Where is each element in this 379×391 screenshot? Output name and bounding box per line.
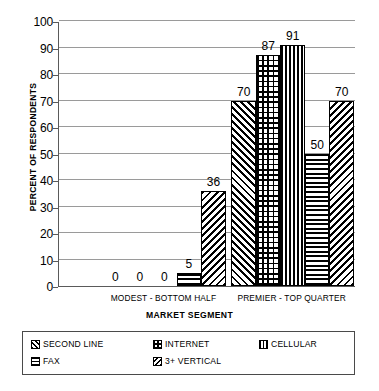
y-axis-tick-mark — [53, 208, 58, 209]
legend-item[interactable]: SECOND LINE — [31, 339, 103, 349]
bar-value-label: 36 — [207, 175, 220, 189]
legend-swatch-icon — [153, 340, 162, 349]
legend-item[interactable]: FAX — [31, 356, 60, 366]
legend-swatch-icon — [259, 340, 268, 349]
bar — [305, 154, 330, 287]
bar — [280, 45, 305, 286]
bar — [177, 273, 202, 286]
y-axis-tick-mark — [53, 49, 58, 50]
x-axis-title: MARKET SEGMENT — [0, 310, 379, 320]
legend-item[interactable]: 3+ VERTICAL — [153, 356, 221, 366]
y-axis-tick-label: 20 — [7, 227, 53, 241]
gridline — [59, 100, 355, 101]
y-axis-tick-mark — [53, 287, 58, 288]
bar-value-label: 0 — [161, 270, 168, 284]
legend-item[interactable]: CELLULAR — [259, 339, 317, 349]
y-axis-tick-label: 100 — [7, 15, 53, 29]
legend-item-label: SECOND LINE — [43, 339, 103, 349]
bar-value-label: 70 — [237, 85, 250, 99]
chart-legend: SECOND LINEINTERNETCELLULARFAX3+ VERTICA… — [22, 331, 355, 375]
y-axis-tick-mark — [53, 155, 58, 156]
y-axis-tick-label: 50 — [7, 148, 53, 162]
y-axis-tick-mark — [53, 22, 58, 23]
bar-value-label: 5 — [186, 257, 193, 271]
bar-value-label: 70 — [335, 85, 348, 99]
bar-value-label: 87 — [262, 39, 275, 53]
legend-swatch-icon — [31, 340, 40, 349]
legend-swatch-icon — [153, 357, 162, 366]
bar — [256, 55, 281, 286]
bar — [231, 101, 256, 287]
legend-item-label: INTERNET — [165, 339, 210, 349]
y-axis-tick-mark — [53, 75, 58, 76]
y-axis-tick-mark — [53, 181, 58, 182]
bar-value-label: 0 — [112, 270, 119, 284]
y-axis-tick-mark — [53, 102, 58, 103]
bar — [201, 191, 226, 286]
y-axis-tick-mark — [53, 261, 58, 262]
legend-item[interactable]: INTERNET — [153, 339, 210, 349]
gridline — [59, 126, 355, 127]
gridline — [59, 47, 355, 48]
bar — [329, 101, 354, 287]
legend-item-label: FAX — [43, 356, 60, 366]
bar-chart-figure: PERCENT OF RESPONDENTS 0005367087915070 … — [0, 0, 379, 320]
bar-value-label: 0 — [137, 270, 144, 284]
y-axis-tick-label: 40 — [7, 174, 53, 188]
y-axis-tick-label: 10 — [7, 254, 53, 268]
y-axis-tick-label: 60 — [7, 121, 53, 135]
bar-value-label: 91 — [286, 29, 299, 43]
legend-item-label: 3+ VERTICAL — [165, 356, 221, 366]
y-axis-tick-label: 80 — [7, 68, 53, 82]
bar-value-label: 50 — [311, 138, 324, 152]
plot-area: 0005367087915070 — [58, 22, 355, 287]
x-axis-category-label: PREMIER - TOP QUARTER — [192, 293, 379, 303]
legend-item-label: CELLULAR — [271, 339, 317, 349]
y-axis-tick-label: 70 — [7, 95, 53, 109]
gridline — [59, 73, 355, 74]
y-axis-tick-mark — [53, 234, 58, 235]
y-axis-tick-mark — [53, 128, 58, 129]
y-axis-tick-label: 90 — [7, 42, 53, 56]
y-axis-tick-label: 0 — [7, 280, 53, 294]
y-axis-tick-label: 30 — [7, 201, 53, 215]
gridline — [59, 20, 355, 21]
legend-swatch-icon — [31, 357, 40, 366]
